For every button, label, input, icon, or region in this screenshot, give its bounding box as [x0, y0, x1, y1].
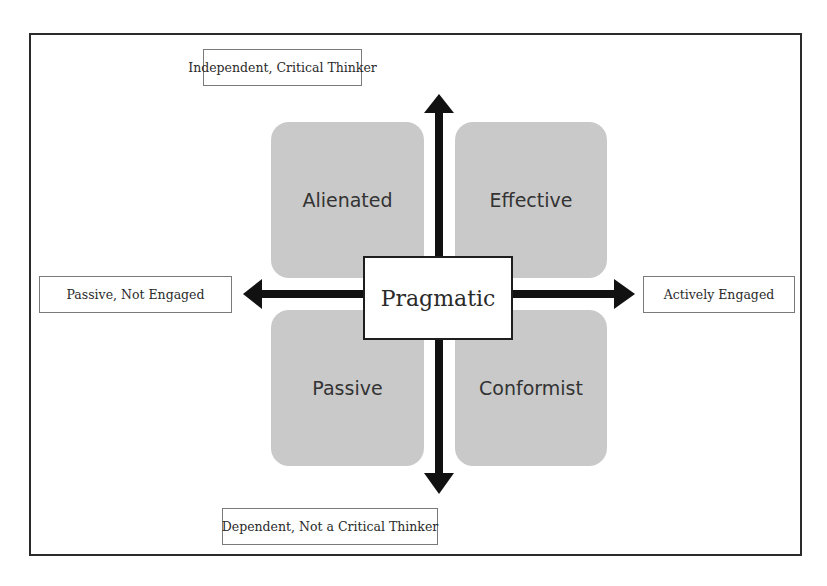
arrow-left-icon	[243, 279, 262, 309]
axis-label-text: Passive, Not Engaged	[66, 287, 204, 302]
axis-label-bottom: Dependent, Not a Critical Thinker	[222, 508, 438, 545]
center-label-box: Pragmatic	[363, 256, 513, 340]
arrow-up-icon	[424, 94, 454, 113]
axis-label-left: Passive, Not Engaged	[39, 276, 232, 313]
center-label: Pragmatic	[381, 286, 496, 311]
arrow-down-icon	[424, 473, 454, 494]
axis-label-right: Actively Engaged	[643, 276, 795, 313]
axis-label-text: Independent, Critical Thinker	[188, 60, 377, 75]
axis-label-text: Dependent, Not a Critical Thinker	[222, 519, 439, 534]
axis-label-text: Actively Engaged	[664, 287, 775, 302]
axis-label-top: Independent, Critical Thinker	[203, 49, 362, 86]
arrow-right-icon	[614, 279, 635, 309]
